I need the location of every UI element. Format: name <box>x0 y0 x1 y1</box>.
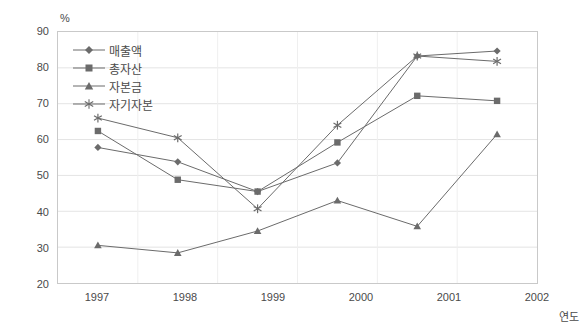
triangle-marker-icon <box>72 78 106 94</box>
y-tick-label-70: 70 <box>5 97 49 109</box>
data-point-1-1 <box>175 177 181 183</box>
data-point-2-2 <box>254 227 262 234</box>
y-tick-label-80: 80 <box>5 61 49 73</box>
legend-item-0[interactable]: 매출액 <box>72 41 192 59</box>
x-tick-label-1999: 1999 <box>238 291 308 303</box>
data-point-2-0 <box>94 242 102 249</box>
data-point-0-1 <box>174 158 181 165</box>
legend-item-2[interactable]: 자본금 <box>72 77 192 95</box>
legend-label-2: 자본금 <box>106 78 142 95</box>
square-marker-icon <box>72 60 106 76</box>
legend-label-1: 총자산 <box>106 60 142 77</box>
legend: 매출액 총자산 자본금 자기 <box>72 41 192 113</box>
legend-item-1[interactable]: 총자산 <box>72 59 192 77</box>
y-tick-label-90: 90 <box>5 25 49 37</box>
x-tick-label-1997: 1997 <box>62 291 132 303</box>
data-point-1-2 <box>254 188 260 194</box>
y-tick-label-50: 50 <box>5 169 49 181</box>
legend-label-3: 자기자본 <box>106 96 153 113</box>
data-point-1-3 <box>334 139 340 145</box>
y-tick-label-20: 20 <box>5 278 49 290</box>
x-tick-label-2002: 2002 <box>502 291 572 303</box>
y-tick-label-40: 40 <box>5 206 49 218</box>
y-axis-unit-label: % <box>60 12 70 24</box>
y-tick-label-30: 30 <box>5 242 49 254</box>
line-chart: % 90 80 70 60 50 40 30 20 매출액 총자산 <box>0 0 585 329</box>
data-point-2-5 <box>493 130 501 137</box>
data-point-1-0 <box>95 128 101 134</box>
data-point-2-3 <box>334 197 342 204</box>
x-tick-label-2000: 2000 <box>326 291 396 303</box>
asterisk-marker-icon <box>72 96 106 112</box>
data-point-1-4 <box>414 93 420 99</box>
legend-item-3[interactable]: 자기자본 <box>72 95 192 113</box>
data-point-3-0 <box>94 114 102 123</box>
x-tick-label-1998: 1998 <box>150 291 220 303</box>
data-point-0-5 <box>493 47 500 54</box>
data-point-1-5 <box>494 98 500 104</box>
y-tick-label-60: 60 <box>5 133 49 145</box>
x-axis-title: 연도 <box>559 308 579 324</box>
legend-label-0: 매출액 <box>106 42 142 59</box>
data-point-0-3 <box>334 159 341 166</box>
x-tick-label-2001: 2001 <box>414 291 484 303</box>
diamond-marker-icon <box>72 42 106 58</box>
data-point-0-0 <box>94 144 101 151</box>
